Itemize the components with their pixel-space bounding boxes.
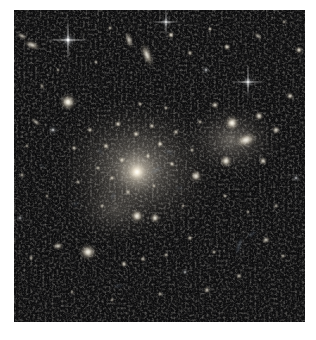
sky-canvas xyxy=(14,10,305,322)
astronomy-image-field xyxy=(14,10,305,322)
screenshot-root xyxy=(0,0,316,340)
faint-background-sources xyxy=(14,10,305,322)
